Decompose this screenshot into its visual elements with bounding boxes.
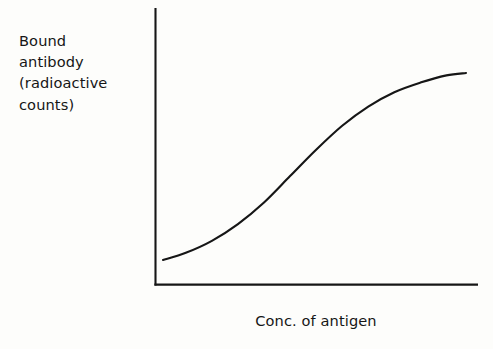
plot-area (0, 0, 493, 349)
data-curve-bound-antibody (163, 73, 466, 260)
x-axis-label: Conc. of antigen (154, 311, 478, 331)
figure-canvas: Bound antibody (radioactive counts) Conc… (0, 0, 493, 349)
